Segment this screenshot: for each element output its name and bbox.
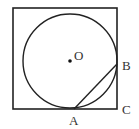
- geometry-diagram: O B C A: [0, 0, 139, 129]
- label-o: O: [74, 48, 83, 63]
- label-a: A: [69, 113, 79, 128]
- square: [13, 8, 117, 109]
- center-point: [68, 59, 72, 63]
- label-c: C: [122, 102, 131, 117]
- label-b: B: [122, 58, 131, 73]
- chord-ab: [74, 64, 117, 109]
